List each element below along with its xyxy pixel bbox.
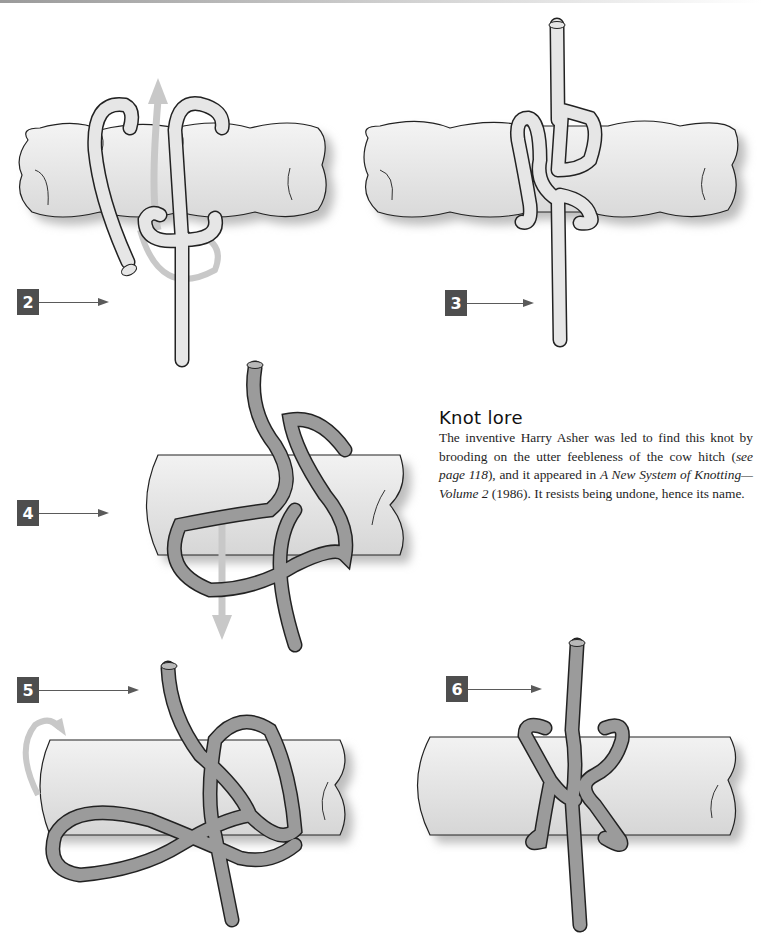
pointer-line [39, 690, 128, 691]
lore-text-part: The inventive Harry Asher was led to fin… [439, 430, 753, 464]
knot-lore-text: The inventive Harry Asher was led to fin… [439, 429, 753, 503]
step-5-illustration: 5 [0, 640, 400, 948]
pointer-arrow-icon [98, 298, 109, 306]
knot-lore-heading: Knot lore [439, 407, 753, 428]
step-number-badge: 6 [446, 676, 468, 702]
step-2-label: 2 [17, 289, 109, 315]
pointer-line [39, 513, 98, 514]
step-4-label: 4 [17, 500, 109, 526]
step-3-drawing [350, 0, 762, 380]
step-2-illustration: 2 [0, 0, 380, 380]
step-number-badge: 2 [17, 289, 39, 315]
pointer-arrow-icon [98, 509, 109, 517]
pointer-line [467, 303, 523, 304]
step-3-label: 3 [445, 290, 534, 316]
pointer-line [468, 689, 531, 690]
lore-text-part: (1986). It resists being undone, hence i… [488, 486, 744, 501]
step-number-badge: 4 [17, 500, 39, 526]
knot-lore-sidebar: Knot lore The inventive Harry Asher was … [439, 407, 753, 503]
step-number-badge: 3 [445, 290, 467, 316]
step-3-illustration: 3 [350, 0, 762, 380]
step-2-drawing [0, 0, 380, 380]
lore-text-part: ), and it appeared in [488, 467, 600, 482]
step-4-illustration: 4 [0, 350, 420, 650]
step-6-label: 6 [446, 676, 542, 702]
step-5-label: 5 [17, 677, 139, 703]
pointer-arrow-icon [523, 299, 534, 307]
pointer-arrow-icon [128, 686, 139, 694]
step-6-illustration: 6 [400, 640, 762, 948]
pointer-line [39, 302, 98, 303]
step-number-badge: 5 [17, 677, 39, 703]
pointer-arrow-icon [531, 685, 542, 693]
